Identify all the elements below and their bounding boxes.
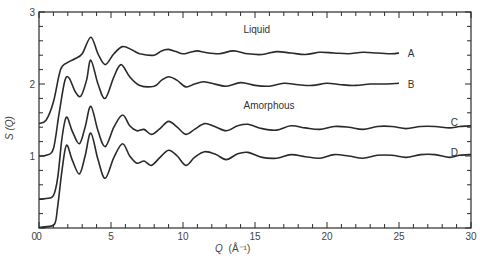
x-tick-label: 5 [108,231,114,242]
annotation-liquid: Liquid [243,24,270,35]
x-tick-label: 30 [465,231,477,242]
curve-c [39,106,471,199]
y-tick-label: 0 [31,231,37,242]
tick-marks [39,12,471,228]
x-axis-title: Q (Å⁻¹) [215,242,250,254]
axes [39,12,471,228]
series-label-a: A [408,48,415,59]
y-axis-title: S (Q) [4,116,15,140]
y-tick-label: 1 [29,151,35,162]
series-label-d: D [451,147,458,158]
x-tick-label: 25 [393,231,405,242]
series-label-c: C [451,117,458,128]
series-labels: ABCD [408,48,458,158]
x-axis-title-unit: (Å⁻¹) [229,242,251,254]
x-tick-label: 10 [177,231,189,242]
x-axis-title-q: Q [215,243,223,254]
structure-factor-chart: 0510152025300123 ABCD Liquid Amorphous Q… [0,0,480,259]
x-tick-label: 15 [249,231,261,242]
y-tick-label: 3 [29,7,35,18]
data-curves [39,37,471,227]
x-tick-label: 0 [36,231,42,242]
curve-b [39,60,399,156]
annotation-amorphous: Amorphous [243,100,294,111]
x-tick-label: 20 [321,231,333,242]
y-tick-label: 2 [29,79,35,90]
series-label-b: B [408,79,415,90]
plot-frame [39,12,471,228]
curve-d [39,133,471,227]
